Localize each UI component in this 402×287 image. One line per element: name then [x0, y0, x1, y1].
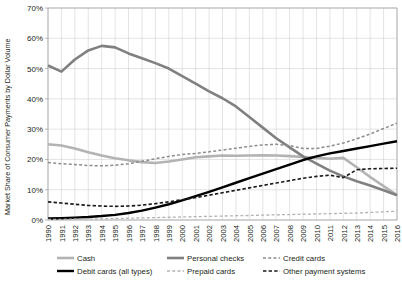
x-tick-label: 1996 [125, 225, 134, 242]
chart-container: Market Share of Consumer Payments by Dol… [0, 0, 402, 287]
x-tick-label: 1993 [84, 225, 93, 242]
x-tick-label: 1992 [71, 225, 80, 242]
x-tick-label: 1999 [165, 225, 174, 242]
legend-label-credit-cards: Credit cards [283, 254, 325, 263]
y-tick-label: 50% [27, 65, 43, 74]
y-tick-label: 60% [27, 34, 43, 43]
line-chart: Market Share of Consumer Payments by Dol… [0, 0, 402, 287]
x-tick-label: 2004 [232, 225, 241, 242]
x-tick-label: 1994 [98, 225, 107, 242]
x-tick-label: 1990 [44, 225, 53, 242]
chart-legend: CashPersonal checksCredit cardsDebit car… [57, 254, 365, 276]
x-tick-label: 2014 [366, 225, 375, 242]
y-tick-label: 0% [31, 216, 43, 225]
x-tick-label: 2002 [205, 225, 214, 242]
x-tick-label: 2011 [326, 225, 335, 241]
x-tick-label: 1991 [58, 225, 67, 242]
x-tick-label: 2003 [219, 225, 228, 242]
x-tick-label: 2012 [340, 225, 349, 242]
x-tick-label: 2007 [272, 225, 281, 242]
x-tick-label: 2006 [259, 225, 268, 242]
x-tick-label: 2000 [178, 225, 187, 242]
x-tick-label: 2009 [299, 225, 308, 242]
x-tick-label: 1995 [111, 225, 120, 242]
x-tick-label: 2010 [313, 225, 322, 242]
y-axis-title-group: Market Share of Consumer Payments by Dol… [3, 38, 12, 215]
x-tick-label: 1998 [152, 225, 161, 242]
x-tick-label: 1997 [138, 225, 147, 242]
y-tick-label: 70% [27, 4, 43, 13]
y-axis-ticks: 0%10%20%30%40%50%60%70% [27, 4, 48, 225]
y-tick-label: 30% [27, 125, 43, 134]
legend-label-cash: Cash [77, 254, 95, 263]
y-tick-label: 40% [27, 95, 43, 104]
x-tick-label: 2008 [286, 225, 295, 242]
legend-label-prepaid-cards: Prepaid cards [187, 267, 235, 276]
x-tick-label: 2005 [246, 225, 255, 242]
y-tick-label: 20% [27, 155, 43, 164]
x-tick-label: 2001 [192, 225, 201, 242]
y-axis-title: Market Share of Consumer Payments by Dol… [3, 38, 12, 215]
x-axis-ticks: 1990199119921993199419951996199719981999… [44, 225, 402, 242]
legend-label-debit-cards: Debit cards (all types) [77, 267, 153, 276]
legend-label-personal-checks: Personal checks [187, 254, 244, 263]
x-tick-label: 2015 [380, 225, 389, 242]
x-tick-label: 2016 [393, 225, 402, 242]
y-tick-label: 10% [27, 186, 43, 195]
legend-label-other-payment-systems: Other payment systems [283, 267, 365, 276]
x-tick-label: 2013 [353, 225, 362, 242]
